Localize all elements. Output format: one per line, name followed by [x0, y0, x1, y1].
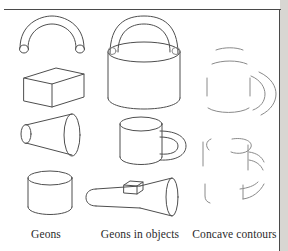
column-label-geons: Geons — [0, 228, 92, 240]
column-label-geons-in-objects: Geons in objects — [92, 228, 188, 240]
curved-arch-geon — [20, 16, 85, 53]
column-labels-row: Geons Geons in objects Concave contours — [0, 228, 281, 248]
mug-object — [120, 117, 186, 165]
flashlight-object — [86, 178, 178, 216]
cylinder-geon — [28, 171, 72, 215]
mug-concave-contours-middle — [203, 138, 264, 170]
truncated-cone-geon — [21, 114, 80, 156]
bucket-object — [108, 16, 180, 109]
figure-root: Geons Geons in objects Concave contours — [0, 0, 288, 251]
mug-concave-contours-bottom — [205, 182, 264, 203]
mug-concave-contours-top — [207, 48, 276, 115]
figure-artwork — [0, 0, 288, 251]
brick-geon — [24, 68, 84, 107]
column-label-concave-contours: Concave contours — [188, 228, 281, 240]
